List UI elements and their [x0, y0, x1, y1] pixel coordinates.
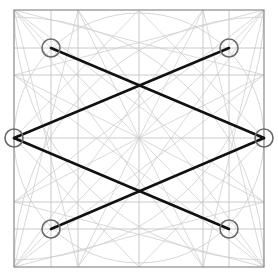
center-ray — [139, 10, 203, 138]
center-ray — [78, 138, 139, 267]
bold-line — [51, 138, 264, 229]
center-ray — [78, 10, 139, 138]
center-ray — [14, 138, 139, 202]
bold-line — [51, 48, 264, 138]
center-ray — [139, 138, 203, 267]
center-ray — [139, 138, 264, 202]
center-ray — [14, 75, 139, 138]
center-ray — [139, 75, 264, 138]
geometric-diagram — [0, 0, 278, 273]
